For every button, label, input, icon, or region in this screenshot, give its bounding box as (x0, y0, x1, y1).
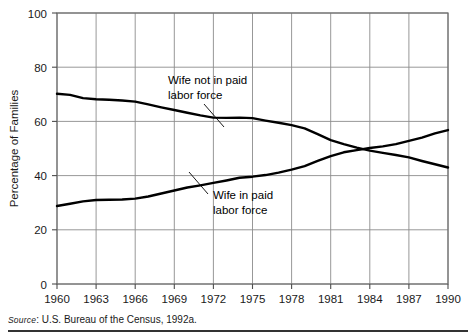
x-tick-label: 1966 (122, 293, 148, 305)
annotation-text-line1: Wife not in paid (168, 74, 247, 86)
y-axis-tick-labels: 100 80 60 40 20 0 (28, 8, 47, 291)
x-tick-label: 1963 (83, 293, 109, 305)
y-tick-label: 20 (34, 224, 47, 236)
x-axis-tick-labels: 1960 1963 1966 1969 1972 1975 1978 1981 … (44, 293, 461, 305)
y-tick-label: 100 (28, 8, 47, 20)
source-keyword: Source (8, 315, 36, 325)
annotation-text-line2: labor force (213, 204, 267, 216)
source-text: U.S. Bureau of the Census, 1992a. (42, 314, 197, 325)
y-axis-ticks (52, 13, 57, 284)
y-axis-title: Percentage of Families (8, 89, 20, 207)
x-tick-label: 1975 (240, 293, 266, 305)
y-tick-label: 0 (41, 279, 47, 291)
y-tick-label: 60 (34, 116, 47, 128)
x-tick-label: 1984 (357, 293, 383, 305)
chart-figure: 100 80 60 40 20 0 1960 1963 1966 1969 19… (0, 0, 476, 336)
x-tick-label: 1972 (201, 293, 227, 305)
y-tick-label: 80 (34, 62, 47, 74)
line-chart-svg: 100 80 60 40 20 0 1960 1963 1966 1969 19… (0, 0, 476, 336)
x-axis-ticks (57, 284, 448, 289)
x-tick-label: 1990 (435, 293, 461, 305)
y-tick-label: 40 (34, 170, 47, 182)
annotation-text-line1: Wife in paid (213, 189, 273, 201)
source-note: Source: U.S. Bureau of the Census, 1992a… (8, 314, 197, 325)
annotation-text-line2: labor force (168, 89, 222, 101)
source-separator: : (36, 314, 39, 325)
bottom-rule (8, 330, 468, 332)
x-tick-label: 1960 (44, 293, 70, 305)
x-tick-label: 1978 (279, 293, 305, 305)
x-tick-label: 1987 (396, 293, 422, 305)
x-tick-label: 1981 (318, 293, 344, 305)
x-tick-label: 1969 (162, 293, 188, 305)
